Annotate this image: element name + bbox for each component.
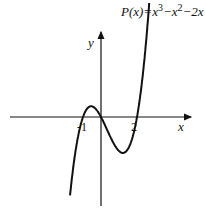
y-axis-label: y — [86, 35, 94, 50]
cubic-curve — [70, 3, 149, 195]
x-tick-label: 2 — [131, 120, 137, 134]
x-axis-label: x — [177, 119, 184, 134]
function-label: P(x)=x3−x2−2x — [120, 2, 204, 19]
graph: y x -1 2 P(x)=x3−x2−2x — [0, 0, 205, 217]
x-tick-label: -1 — [77, 120, 87, 134]
